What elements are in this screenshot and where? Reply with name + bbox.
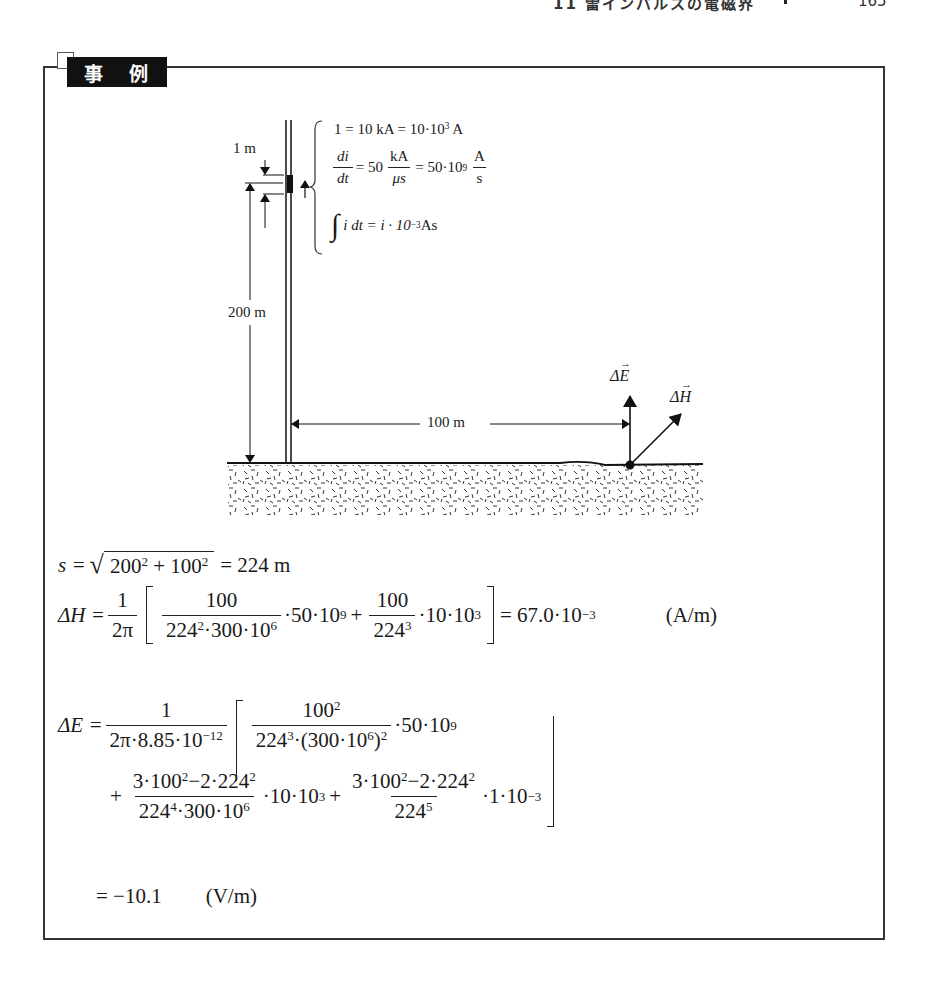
given-charge: ∫ i dt = i · 10−3 As bbox=[331, 208, 437, 242]
ground-hatching bbox=[228, 465, 703, 515]
equation-electric-field-result: = −10.1 (V/m) bbox=[96, 884, 257, 909]
e-vector-label: ΔE→ bbox=[610, 367, 629, 385]
equation-distance: s = √ 2002 + 1002 = 224 m bbox=[58, 550, 290, 580]
equation-electric-field-line2: + 3·1002−2·2242 2244·300·106 ·10·103 + 3… bbox=[110, 766, 560, 827]
tower-height-label: 200 m bbox=[228, 304, 266, 321]
distance-label: 100 m bbox=[427, 414, 465, 431]
given-current-rate: didt = 50 kAμs = 50·109 As bbox=[330, 148, 492, 187]
current-segment bbox=[287, 175, 293, 193]
h-vector-label: ΔH→ bbox=[670, 388, 691, 406]
h-field-vector bbox=[630, 414, 681, 465]
equation-electric-field-line1: ΔE = 1 2π·8.85·10−12 1002 2243·(300·106)… bbox=[58, 670, 457, 781]
given-values-brace bbox=[310, 121, 322, 254]
segment-length-label: 1 m bbox=[233, 140, 256, 157]
given-current: 1 = 10 kA = 10·103 A bbox=[334, 121, 463, 138]
equation-magnetic-field: ΔH = 12π 100 2242·300·106 ·50·109 + 100 … bbox=[58, 586, 717, 644]
